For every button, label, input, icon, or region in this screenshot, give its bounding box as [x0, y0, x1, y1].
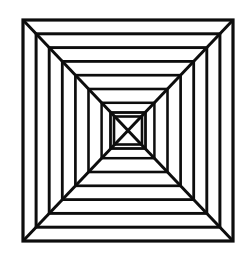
nested-squares-figure: [0, 0, 248, 276]
figure-container: [0, 0, 248, 276]
